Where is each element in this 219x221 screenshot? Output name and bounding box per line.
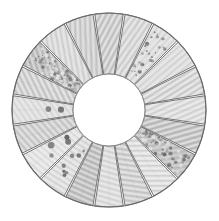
figure-root: Annular radial segment specimen Grayscal… — [0, 0, 219, 221]
center-hole — [73, 74, 145, 146]
annulus-diagram — [0, 0, 219, 221]
